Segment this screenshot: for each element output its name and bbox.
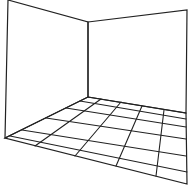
floor-tile-row-line — [46, 118, 186, 139]
right-wall — [88, 10, 187, 113]
floor-tile-column-line — [116, 106, 142, 166]
floor-tile-column-line — [35, 99, 101, 146]
floor — [5, 97, 187, 184]
room-corner-diagram — [0, 0, 193, 187]
walls — [5, 0, 187, 138]
